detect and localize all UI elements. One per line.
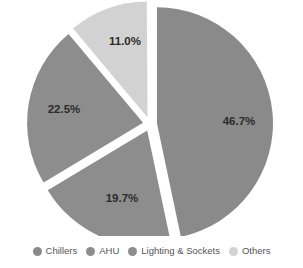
pie-slice-label: 11.0%	[109, 35, 141, 47]
pie-slice-label: 19.7%	[106, 192, 139, 204]
legend-item-chillers[interactable]: Chillers	[33, 246, 78, 256]
pie-slice-label: 46.7%	[223, 115, 256, 127]
legend-item-label: AHU	[99, 246, 119, 256]
legend-item-ahu[interactable]: AHU	[86, 246, 119, 256]
legend-item-label: Others	[242, 246, 271, 256]
pie-chart: 46.7%19.7%22.5%11.0% ChillersAHULighting…	[0, 0, 303, 268]
legend-item-label: Lighting & Sockets	[141, 246, 220, 256]
legend-item-others[interactable]: Others	[229, 246, 271, 256]
legend-swatch-circle-icon	[86, 247, 95, 256]
pie-slice-label: 22.5%	[48, 103, 81, 115]
pie-plot-area: 46.7%19.7%22.5%11.0%	[0, 0, 303, 236]
legend-swatch-circle-icon	[229, 247, 238, 256]
pie-svg: 46.7%19.7%22.5%11.0%	[0, 0, 303, 236]
legend-item-lighting-sockets[interactable]: Lighting & Sockets	[128, 246, 220, 256]
pie-slice-chillers[interactable]	[157, 7, 273, 236]
legend-swatch-circle-icon	[33, 247, 42, 256]
legend-item-label: Chillers	[46, 246, 78, 256]
legend-swatch-circle-icon	[128, 247, 137, 256]
chart-legend: ChillersAHULighting & SocketsOthers	[0, 238, 303, 264]
